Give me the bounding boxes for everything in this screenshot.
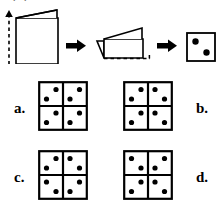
dot-bl-bottom-right xyxy=(53,189,58,194)
answer-options: a. xyxy=(0,64,223,203)
dot-bl-top-right xyxy=(138,179,143,184)
dot-br-bottom-left xyxy=(67,189,72,194)
option-c-label: c. xyxy=(14,169,24,186)
right-arrow-icon-2 xyxy=(157,40,177,53)
hole-lower-right xyxy=(203,49,209,55)
option-a[interactable]: a. xyxy=(0,64,111,133)
dot-tl-top-left xyxy=(129,156,134,161)
dot-tr-bottom-left xyxy=(152,165,157,170)
right-arrow-icon-1 xyxy=(66,40,86,53)
dot-tl-top-right xyxy=(53,156,58,161)
dot-bl-top-left xyxy=(44,179,49,184)
option-c-grid xyxy=(38,150,88,200)
dot-br-bottom-right xyxy=(162,120,167,125)
dot-br-top-right xyxy=(77,179,82,184)
option-b-label: b. xyxy=(196,100,208,117)
dot-tl-bottom-left xyxy=(44,96,49,101)
dot-bl-bottom-left xyxy=(44,120,49,125)
option-a-label: a. xyxy=(14,100,25,117)
dot-tl-bottom-left xyxy=(44,165,49,170)
puzzle-page: A paper is folded and then cut as shown xyxy=(0,0,223,203)
dot-bl-top-right xyxy=(53,110,58,115)
dot-bl-bottom-left xyxy=(129,120,134,125)
option-d-grid xyxy=(123,150,173,200)
dot-tl-top-right xyxy=(53,87,58,92)
dot-bl-top-right xyxy=(138,110,143,115)
dot-br-bottom-right xyxy=(162,189,167,194)
dot-tr-top-left xyxy=(67,156,72,161)
dot-br-top-right xyxy=(77,110,82,115)
dot-tl-bottom-left xyxy=(129,96,134,101)
step-2-folded-paper xyxy=(97,28,150,59)
dot-tr-top-right xyxy=(77,87,82,92)
option-b[interactable]: b. xyxy=(112,64,223,133)
option-d[interactable]: d. xyxy=(112,133,223,202)
dot-tr-bottom-right xyxy=(162,96,167,101)
option-b-grid xyxy=(123,81,173,131)
option-a-grid xyxy=(38,81,88,131)
step-3-folded-square-with-holes xyxy=(187,33,215,61)
dot-br-bottom-left xyxy=(67,120,72,125)
hole-upper-left xyxy=(192,38,198,44)
fold-direction-arrow xyxy=(5,10,13,17)
dot-tr-top-left xyxy=(152,87,157,92)
cut-off-heading: A paper is folded and then cut as shown xyxy=(4,0,219,3)
option-c[interactable]: c. xyxy=(0,133,111,202)
paper-folding-sequence xyxy=(0,6,223,64)
option-d-label: d. xyxy=(196,169,208,186)
dot-tr-bottom-left xyxy=(67,96,72,101)
dot-tl-top-right xyxy=(138,87,143,92)
dot-br-top-left xyxy=(152,110,157,115)
step-1-unfolded-paper xyxy=(5,10,58,64)
dot-tr-bottom-right xyxy=(77,165,82,170)
dot-br-top-left xyxy=(152,179,157,184)
dot-tl-bottom-right xyxy=(138,165,143,170)
dot-bl-bottom-left xyxy=(129,189,134,194)
dot-tr-top-right xyxy=(162,156,167,161)
